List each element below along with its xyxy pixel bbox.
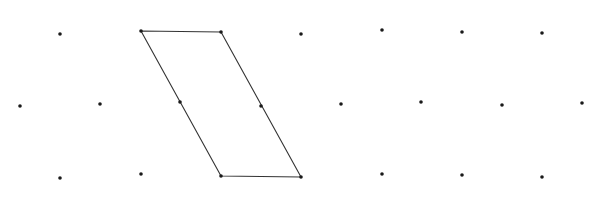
grid-dot (18, 104, 22, 108)
parallelogram-shape (141, 31, 301, 177)
grid-dot (339, 102, 343, 106)
grid-dot (58, 32, 62, 36)
grid-dot (460, 173, 464, 177)
grid-dot (540, 31, 544, 35)
grid-dots (18, 28, 584, 180)
grid-dot (139, 172, 143, 176)
grid-dot (299, 32, 303, 36)
grid-dot (299, 175, 303, 179)
grid-dot (259, 104, 263, 108)
grid-dot (139, 29, 143, 33)
grid-dot (58, 176, 62, 180)
grid-dot (219, 174, 223, 178)
grid-dot (98, 102, 102, 106)
grid-dot (419, 100, 423, 104)
grid-dot (460, 30, 464, 34)
grid-dot (178, 100, 182, 104)
grid-dot (580, 101, 584, 105)
grid-dot (380, 28, 384, 32)
grid-dot (219, 30, 223, 34)
grid-dot (500, 103, 504, 107)
dot-grid-diagram (0, 0, 597, 212)
grid-dot (540, 175, 544, 179)
grid-dot (380, 172, 384, 176)
diagram-svg (0, 0, 597, 212)
